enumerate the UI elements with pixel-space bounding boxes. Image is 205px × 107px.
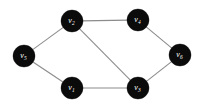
graph-edge-v3-v6: [145, 61, 172, 82]
node-circle-v4: [127, 9, 149, 31]
graph-node-v3[interactable]: v3: [127, 77, 149, 99]
graph-node-v5[interactable]: v5: [13, 45, 35, 67]
edge-layer: [32, 20, 173, 88]
graph-node-v4[interactable]: v4: [127, 9, 149, 31]
graph-edge-v2-v4: [82, 20, 129, 21]
graph-edge-v2-v3: [79, 28, 132, 81]
graph-node-v1[interactable]: v1: [61, 77, 83, 99]
graph-edge-v5-v2: [32, 27, 65, 51]
graph-node-v2[interactable]: v2: [61, 10, 83, 32]
graph-node-v6[interactable]: v6: [169, 44, 191, 66]
node-circle-v2: [61, 10, 83, 32]
node-circle-v6: [169, 44, 191, 66]
graph-canvas: v1v2v3v4v5v6: [0, 0, 205, 107]
node-circle-v5: [13, 45, 35, 67]
graph-edge-v5-v1: [32, 61, 64, 82]
node-circle-v1: [61, 77, 83, 99]
graph-edge-v4-v6: [145, 26, 172, 49]
node-layer: v1v2v3v4v5v6: [13, 9, 191, 99]
graph-figure: v1v2v3v4v5v6: [0, 0, 205, 107]
node-circle-v3: [127, 77, 149, 99]
